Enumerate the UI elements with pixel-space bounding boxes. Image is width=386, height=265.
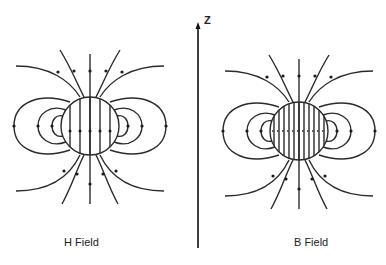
- b-field-label: B Field: [294, 236, 328, 248]
- arrow-up-icon: [196, 22, 201, 29]
- z-axis: Z: [196, 14, 212, 248]
- magnetic-field-diagram: Z H Field B Field: [0, 0, 386, 265]
- z-axis-label: Z: [204, 14, 211, 26]
- h-field-label: H Field: [64, 236, 99, 248]
- h-field-panel: [12, 50, 167, 204]
- b-field-panel: [221, 55, 376, 209]
